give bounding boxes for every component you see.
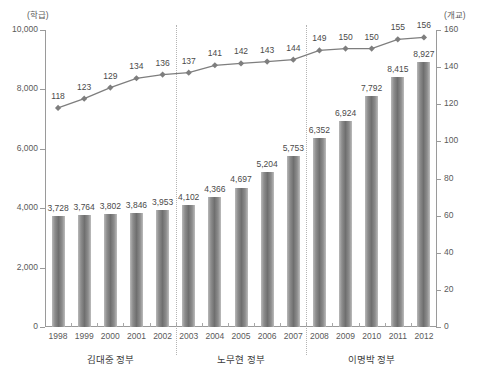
- line-marker: [316, 47, 322, 53]
- x-axis-label: 1998: [49, 331, 68, 341]
- right-axis-tick-label: 160: [444, 24, 458, 34]
- plot-area: 02,0004,0006,0008,00010,000 020406080100…: [45, 30, 437, 327]
- line-marker: [133, 75, 139, 81]
- left-axis-tick-label: 2,000: [17, 262, 38, 272]
- period-group-label: 노무현 정부: [217, 352, 265, 366]
- x-axis-label: 2008: [310, 331, 329, 341]
- left-axis-unit-label: (학급): [27, 8, 49, 20]
- right-axis-tick-label: 100: [444, 135, 458, 145]
- x-axis-label: 2001: [127, 331, 146, 341]
- line-point-label: 134: [129, 61, 143, 71]
- period-group-label: 김대중 정부: [87, 352, 135, 366]
- line-marker: [186, 70, 192, 76]
- right-axis-tick-label: 80: [444, 173, 453, 183]
- line-marker: [160, 71, 166, 77]
- x-axis-label: 2005: [232, 331, 251, 341]
- line-point-label: 118: [51, 91, 65, 101]
- line-point-label: 136: [156, 58, 170, 68]
- x-axis-label: 2007: [284, 331, 303, 341]
- x-axis-label: 2004: [205, 331, 224, 341]
- line-marker: [421, 34, 427, 40]
- line-marker: [395, 36, 401, 42]
- left-axis-tick-label: 4,000: [17, 202, 38, 212]
- right-axis-tick-label: 140: [444, 61, 458, 71]
- line-point-label: 137: [182, 56, 196, 66]
- right-axis-tick-label: 0: [444, 321, 449, 331]
- x-axis-label: 2009: [336, 331, 355, 341]
- line-point-label: 150: [338, 32, 352, 42]
- line-point-label: 143: [260, 45, 274, 55]
- left-axis-tick-label: 8,000: [17, 83, 38, 93]
- x-axis-label: 2000: [101, 331, 120, 341]
- line-point-label: 129: [103, 71, 117, 81]
- x-axis-label: 2012: [414, 331, 433, 341]
- line-marker: [238, 60, 244, 66]
- line-marker: [264, 58, 270, 64]
- line-marker: [342, 45, 348, 51]
- line-marker: [290, 57, 296, 63]
- line-point-label: 142: [234, 46, 248, 56]
- x-axis-label: 2010: [362, 331, 381, 341]
- line-marker: [107, 84, 113, 90]
- right-axis-tick: [436, 327, 441, 328]
- x-axis-label: 2003: [179, 331, 198, 341]
- line-point-label: 150: [365, 32, 379, 42]
- dual-axis-combo-chart: (학급) (개교) 02,0004,0006,0008,00010,000 02…: [0, 0, 488, 384]
- line-point-label: 155: [391, 22, 405, 32]
- line-marker: [81, 96, 87, 102]
- left-axis-tick-label: 6,000: [17, 143, 38, 153]
- x-axis-label: 2002: [153, 331, 172, 341]
- line-point-label: 144: [286, 43, 300, 53]
- x-axis-label: 2011: [389, 331, 407, 341]
- x-axis-label: 2006: [258, 331, 277, 341]
- right-axis-tick-label: 120: [444, 98, 458, 108]
- line-point-label: 156: [417, 20, 431, 30]
- period-group-label: 이명박 정부: [348, 352, 396, 366]
- right-axis-tick-label: 20: [444, 284, 453, 294]
- right-axis-tick-label: 40: [444, 247, 453, 257]
- x-axis-label: 1999: [75, 331, 94, 341]
- line-point-label: 123: [77, 82, 91, 92]
- line-marker: [55, 105, 61, 111]
- right-axis-tick-label: 60: [444, 210, 453, 220]
- line-marker: [369, 45, 375, 51]
- line-point-label: 149: [312, 33, 326, 43]
- line-marker: [212, 62, 218, 68]
- left-axis-tick: [40, 327, 45, 328]
- line-point-label: 141: [208, 48, 222, 58]
- right-axis-unit-label: (개교): [444, 8, 466, 20]
- left-axis-tick-label: 0: [33, 321, 38, 331]
- left-axis-tick-label: 10,000: [12, 24, 38, 34]
